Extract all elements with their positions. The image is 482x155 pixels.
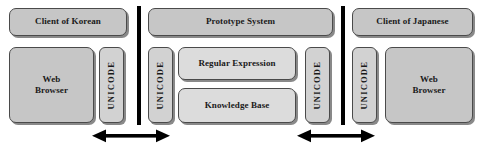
center-left-unicode-strip: UNICODE: [148, 47, 173, 123]
regular-expression-label: Regular Expression: [195, 58, 278, 69]
client-of-korean-box: Client of Korean: [9, 8, 127, 36]
client-of-korean-label: Client of Korean: [32, 16, 104, 27]
left-bidirectional-arrow: [92, 128, 170, 144]
right-web-browser-label: Web Browser: [409, 74, 448, 97]
left-unicode-strip: UNICODE: [99, 47, 124, 123]
right-web-browser-box: Web Browser: [385, 47, 473, 123]
regular-expression-box: Regular Expression: [178, 47, 296, 80]
prototype-system-box: Prototype System: [148, 8, 333, 36]
left-web-browser-label: Web Browser: [32, 74, 71, 97]
client-of-japanese-box: Client of Japanese: [352, 8, 473, 36]
prototype-system-label: Prototype System: [203, 16, 278, 27]
right-unicode-strip: UNICODE: [352, 47, 377, 123]
right-bidirectional-arrow: [297, 128, 375, 144]
client-of-japanese-label: Client of Japanese: [373, 16, 451, 27]
left-unicode-label: UNICODE: [106, 61, 117, 110]
knowledge-base-label: Knowledge Base: [202, 100, 273, 111]
center-right-unicode-strip: UNICODE: [305, 47, 330, 123]
right-boundary-divider: [341, 6, 345, 125]
center-left-unicode-label: UNICODE: [155, 61, 166, 110]
knowledge-base-box: Knowledge Base: [178, 88, 296, 123]
architecture-diagram: Client of Korean Web Browser UNICODE Pro…: [0, 0, 482, 155]
center-right-unicode-label: UNICODE: [312, 61, 323, 110]
left-boundary-divider: [137, 6, 141, 125]
right-unicode-label: UNICODE: [359, 61, 370, 110]
left-web-browser-box: Web Browser: [9, 47, 94, 123]
